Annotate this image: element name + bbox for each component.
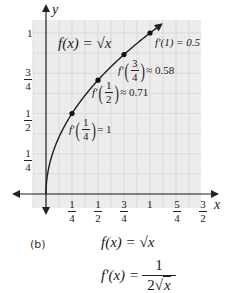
equation-f-prime: f′(x) = 1 2√x <box>101 257 176 293</box>
derivative-at-1-4: f′ ( 14 ) = 1 <box>69 117 112 142</box>
marked-point <box>147 30 152 35</box>
derivative-at-1-2: f′ ( 12 ) ≈ 0.71 <box>92 80 148 105</box>
x-axis-left-arrow-icon <box>12 190 20 198</box>
y-axis-down-arrow-icon <box>42 207 50 215</box>
y-tick-1-4: 14 <box>24 148 32 173</box>
x-tick-3-4: 34 <box>120 199 128 224</box>
x-tick-1-2: 12 <box>94 199 102 224</box>
y-tick-3-4: 34 <box>24 67 32 92</box>
sqrt-function-chart <box>0 0 236 230</box>
y-tick-1: 1 <box>27 28 33 39</box>
marked-point <box>69 111 74 116</box>
equation-f: f(x) = √x <box>101 234 154 251</box>
equation-f-prime-fraction: 1 2√x <box>142 257 176 293</box>
marked-point <box>121 52 126 57</box>
y-axis-label: y <box>52 3 58 17</box>
derivative-at-1: f′(1) = 0.5 <box>155 37 200 48</box>
function-label: f(x) = √x <box>58 36 111 51</box>
x-axis-label: x <box>214 198 220 212</box>
y-axis-up-arrow-icon <box>42 4 50 12</box>
figure-caption-label: (b) <box>30 238 46 251</box>
x-tick-1-4: 14 <box>68 199 76 224</box>
x-tick-5-4: 54 <box>173 199 181 224</box>
x-tick-3-2: 32 <box>199 199 207 224</box>
x-tick-1: 1 <box>147 199 153 210</box>
y-tick-1-2: 12 <box>24 108 32 133</box>
equation-f-prime-lhs: f′(x) = <box>101 267 139 284</box>
